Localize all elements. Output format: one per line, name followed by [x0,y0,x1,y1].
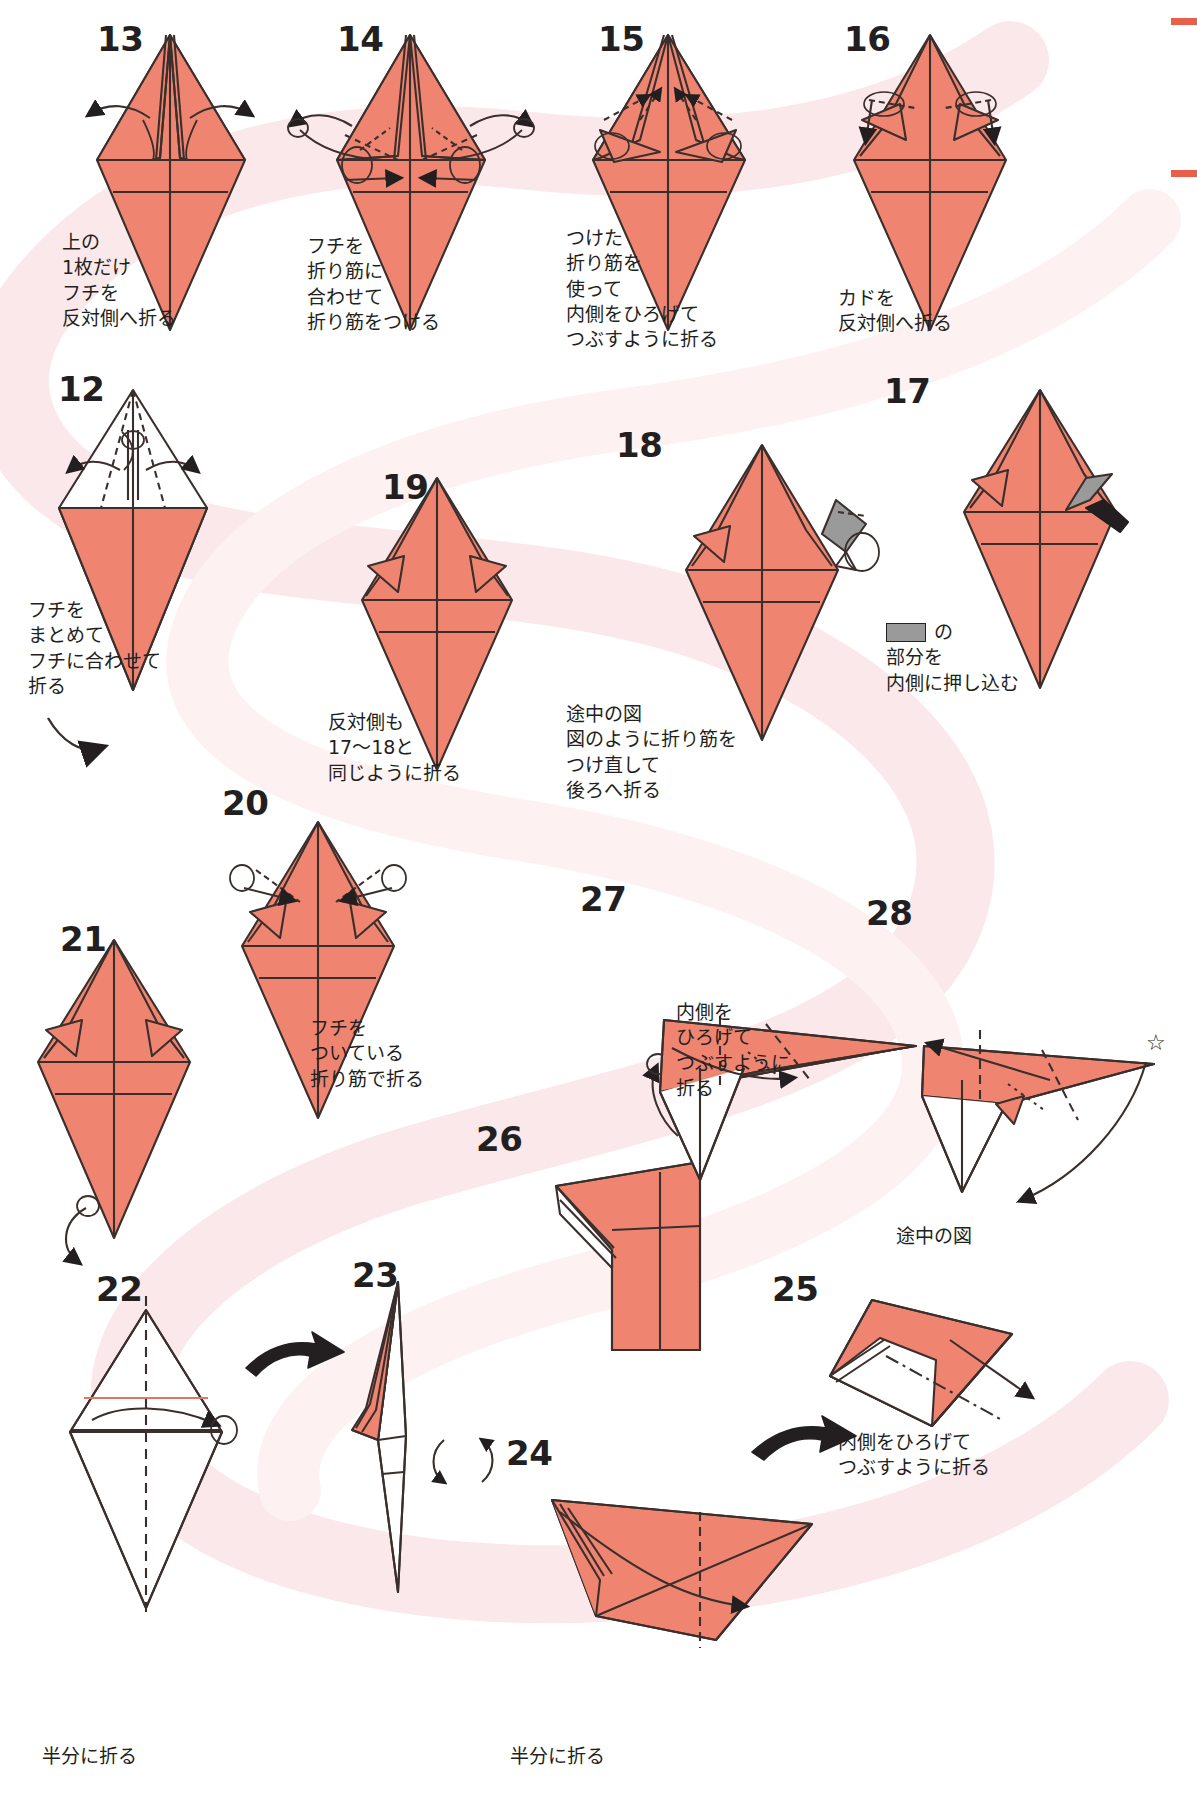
caption-15: つけた 折り筋を 使って 内側をひろげて つぶすように折る [566,226,718,352]
caption-25: 内側をひろげて つぶすように折る [838,1430,990,1481]
caption-14: フチを 折り筋に 合わせて 折り筋をつける [307,234,440,335]
step-number-15: 15 [598,22,644,56]
caption-13: 上の 1枚だけ フチを 反対側へ折る [62,230,176,331]
step-number-24: 24 [506,1436,552,1470]
step-number-21: 21 [60,922,106,956]
caption-20: フチを ついている 折り筋で折る [310,1016,424,1092]
step-number-17: 17 [884,374,930,408]
step-number-16: 16 [844,22,890,56]
step-number-20: 20 [222,786,268,820]
step-number-14: 14 [337,22,383,56]
step-number-23: 23 [352,1258,398,1292]
step-number-28: 28 [866,896,912,930]
caption-16: カドを 反対側へ折る [838,286,952,337]
step-number-18: 18 [616,428,662,462]
caption-27: 内側を ひろげて つぶすように 折る [676,1000,790,1101]
caption-22: 半分に折る [42,1744,137,1769]
labels-layer: 13 14 15 16 12 17 18 19 20 21 27 28 26 2… [0,0,1197,1814]
origami-diagram-page: ☆ 13 14 15 16 12 17 18 19 20 21 27 28 26… [0,0,1197,1814]
gray-region-swatch [886,623,926,642]
step-number-27: 27 [580,882,626,916]
caption-12: フチを まとめて フチに合わせて 折る [28,598,161,699]
step-number-13: 13 [97,22,143,56]
step-number-25: 25 [772,1272,818,1306]
step-number-12: 12 [58,372,104,406]
caption-19: 反対側も 17〜18と 同じように折る [328,710,461,786]
step-number-19: 19 [382,470,428,504]
caption-28: 途中の図 [896,1224,972,1249]
step-number-26: 26 [476,1122,522,1156]
step-number-22: 22 [96,1272,142,1306]
caption-24: 半分に折る [510,1744,605,1769]
caption-18: 途中の図 図のように折り筋を つけ直して 後ろへ折る [566,702,737,803]
